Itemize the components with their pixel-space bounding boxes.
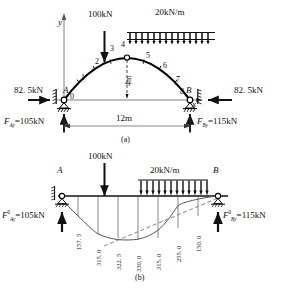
beam-reaction-label-right: F0By=115kN: [223, 210, 266, 222]
arch-node-7: 7: [176, 76, 180, 84]
axis-x: [57, 98, 203, 102]
beam-support-a-label: A: [57, 166, 63, 175]
span-dimension-label: 12m: [116, 114, 132, 123]
arch-node-8: 8: [180, 88, 184, 96]
arch-node-3: 3: [110, 45, 114, 53]
arch-node-6: 6: [163, 62, 167, 70]
point-load-label-b: 100kN: [88, 152, 113, 161]
crown-hinge: [124, 55, 129, 60]
support-a-label: A: [63, 86, 69, 95]
moment-ordinate-value-1: 157. 5: [76, 234, 83, 250]
reaction-label-left-a: FAy=105kN: [4, 117, 44, 128]
arch-node-4: 4: [121, 41, 125, 49]
distributed-load-label-b: 20kN/m: [150, 166, 180, 175]
point-load-label-a: 100kN: [88, 10, 113, 19]
thrust-label-right: 82. 5kN: [234, 86, 263, 95]
support-b-label: B: [186, 86, 192, 95]
arch-node-5: 5: [146, 52, 150, 60]
axis-y-label: y: [58, 18, 62, 27]
arch-node-1: 1: [81, 74, 85, 82]
figure-root: y x A B 100kN 20kN/m 82. 5kN 82. 5kN FAy…: [0, 0, 289, 289]
beam-support-b-label: B: [213, 166, 219, 175]
moment-ordinate-lines: [78, 196, 198, 240]
arch-node-0: 0: [70, 93, 74, 101]
moment-ordinate-value-5: 315. 0: [156, 254, 163, 270]
caption-b: (b): [135, 274, 144, 282]
thrust-label-left: 82. 5kN: [14, 86, 43, 95]
beam-reaction-label-left: F0Ay=105kN: [2, 210, 45, 222]
moment-ordinate-value-4: 330. 0: [136, 256, 143, 272]
figure-svg: [0, 0, 289, 289]
axis-x-label: x: [192, 100, 196, 109]
distributed-load-b: [138, 180, 209, 195]
moment-ordinate-value-3: 322. 5: [116, 254, 123, 270]
moment-ordinate-value-7: 150. 0: [196, 236, 203, 252]
moment-ordinate-value-6: 255. 0: [176, 246, 183, 262]
reaction-label-right-a: FBy=115kN: [197, 117, 237, 128]
caption-a: (a): [121, 136, 130, 144]
rise-dimension-label: 4m: [125, 76, 133, 86]
distributed-load-a: [127, 33, 215, 45]
arch-node-2: 2: [95, 58, 99, 66]
distributed-load-label-a: 20kN/m: [155, 8, 185, 17]
moment-ordinate-value-2: 315. 0: [96, 250, 103, 266]
